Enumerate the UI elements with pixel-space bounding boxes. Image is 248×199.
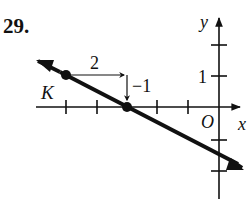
y-axis-label: y bbox=[198, 12, 208, 32]
origin-label: O bbox=[201, 112, 214, 132]
point-x-intercept bbox=[122, 102, 132, 112]
rise-label: −1 bbox=[132, 76, 151, 96]
point-k-label: K bbox=[40, 82, 55, 103]
y-axis bbox=[211, 18, 227, 199]
coordinate-graph: 2 −1 K y 1 O x bbox=[0, 0, 248, 199]
y-tick-label-1: 1 bbox=[198, 67, 207, 87]
x-axis-label: x bbox=[237, 114, 246, 134]
run-label: 2 bbox=[90, 53, 99, 73]
